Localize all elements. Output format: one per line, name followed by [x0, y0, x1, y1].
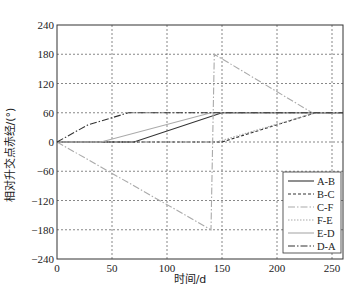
y-tick-label: 60: [43, 107, 55, 119]
x-axis-label: 时间/d: [174, 273, 207, 286]
y-tick-label: −120: [31, 195, 54, 207]
y-tick-label: −60: [37, 165, 55, 177]
y-tick-label: −240: [31, 253, 54, 265]
legend-item-label: C-F: [317, 202, 334, 213]
x-tick-label: 250: [324, 262, 341, 274]
legend-item-label: F-E: [317, 215, 333, 226]
legend-item-label: A-B: [317, 176, 335, 187]
chart: 050100150200250 −240−180−120−60060120180…: [0, 0, 357, 299]
legend-item-label: E-D: [317, 228, 335, 239]
y-tick-label: −180: [31, 224, 54, 236]
y-tick-label: 0: [49, 136, 55, 148]
y-tick-label: 180: [38, 48, 55, 60]
legend-item-label: B-C: [317, 189, 335, 200]
y-tick-label: 240: [38, 19, 55, 31]
x-tick-label: 50: [107, 262, 119, 274]
x-tick-label: 0: [54, 262, 60, 274]
legend-item-label: D-A: [317, 241, 336, 252]
series-line-f-e: [57, 113, 343, 142]
legend: A-BB-CC-FF-EE-DD-A: [283, 172, 341, 253]
y-tick-label: 120: [38, 78, 55, 90]
y-axis-label: 相对升交点赤经/(°): [3, 108, 17, 203]
y-axis-ticks: −240−180−120−60060120180240: [31, 19, 54, 265]
x-tick-label: 150: [214, 262, 231, 274]
x-tick-label: 200: [269, 262, 286, 274]
